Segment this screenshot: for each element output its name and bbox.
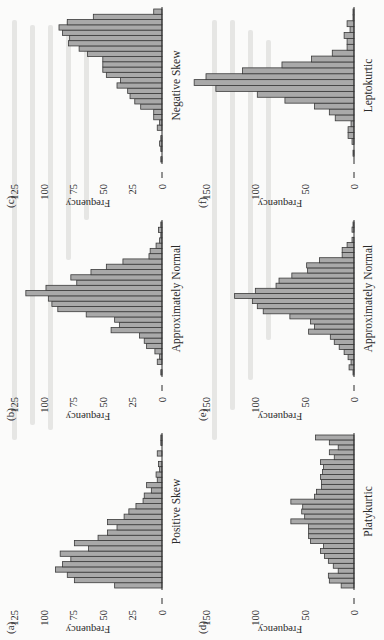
histogram-bar [141, 104, 162, 109]
histogram-bar [158, 227, 162, 232]
histogram-bar [320, 549, 354, 554]
histogram-bar [129, 509, 162, 514]
histogram-bar [308, 268, 354, 273]
histogram-bar [317, 489, 354, 494]
histogram-bar [307, 263, 354, 268]
histogram-bar [115, 583, 162, 588]
y-axis-label: Frequency [65, 411, 110, 422]
histogram-bar [46, 285, 162, 290]
histogram-bar [329, 578, 354, 583]
histogram-bar [309, 329, 354, 334]
histogram-bar [68, 41, 162, 46]
y-tick-label: 125 [9, 610, 20, 626]
histogram-bar [59, 25, 162, 30]
histogram-bar [311, 319, 354, 324]
histogram-bar [89, 546, 162, 551]
y-tick-label: 25 [127, 397, 138, 408]
histogram-bar [70, 35, 162, 40]
bars [55, 435, 162, 588]
histogram-bar [157, 451, 162, 456]
histogram-bar [338, 445, 354, 450]
histogram-bar [67, 20, 162, 25]
histogram-bar [121, 78, 162, 83]
y-tick-label: 75 [68, 397, 79, 408]
y-axis-label: Frequency [65, 624, 110, 635]
y-tick-label: 0 [157, 397, 168, 402]
histogram-bar [119, 322, 162, 327]
histogram-panel-e: (e)050100150FrequencyApproximately Norma… [192, 214, 384, 427]
histogram-bar [285, 97, 354, 103]
histogram-bar [154, 115, 162, 120]
histogram-bar [106, 72, 162, 77]
histogram-bar [60, 551, 162, 556]
histogram-bar [329, 109, 354, 115]
histogram-bar [324, 553, 354, 558]
histogram-bar [334, 455, 354, 460]
histogram-bar [108, 519, 162, 524]
histogram-bar [329, 440, 354, 445]
histogram-bar [350, 27, 354, 33]
histogram-bar [194, 80, 354, 86]
histogram-bar [123, 259, 162, 264]
histogram-bar [290, 314, 354, 319]
y-tick-label: 25 [127, 184, 138, 195]
y-tick-label: 100 [39, 610, 50, 626]
histogram-bar [315, 494, 354, 499]
y-tick-label: 0 [349, 184, 360, 189]
histogram-bar [216, 86, 354, 92]
histogram-bar [74, 541, 162, 546]
y-tick-label: 50 [98, 184, 109, 195]
y-tick-label: 100 [250, 397, 261, 413]
histogram-bar [156, 472, 162, 477]
histogram-bar [347, 242, 354, 247]
y-tick-label: 50 [98, 610, 109, 621]
y-tick-label: 0 [349, 397, 360, 402]
histogram-bar [156, 243, 162, 248]
y-axis-label: Frequency [257, 624, 302, 635]
histogram-bar [243, 68, 354, 74]
histogram-panel-b: (b)0255075100125FrequencyApproximately N… [0, 214, 192, 427]
histogram-bar [140, 333, 163, 338]
histogram-bar [309, 534, 354, 539]
histogram-bar [255, 288, 354, 293]
x-axis-label: Negative Skew [170, 50, 183, 121]
histogram-bar [302, 509, 354, 514]
x-axis-label: Approximately Normal [362, 245, 375, 353]
x-axis-label: Positive Skew [170, 478, 182, 544]
y-tick-label: 75 [68, 610, 79, 621]
histogram-bar [63, 562, 162, 567]
histogram-bar [329, 450, 354, 455]
histogram-bar [79, 46, 162, 51]
histogram-bar [344, 33, 354, 39]
histogram-bar [103, 67, 162, 72]
bars [235, 222, 354, 375]
histogram-bar [348, 127, 354, 133]
y-tick-label: 75 [68, 184, 79, 195]
histogram-bar [319, 258, 354, 263]
histogram-bar [347, 21, 354, 27]
histogram-bar [315, 324, 354, 329]
y-axis-label: Frequency [65, 198, 110, 209]
histogram-bar [63, 30, 162, 35]
histogram-bar [93, 14, 162, 19]
x-axis-label: Leptokurtic [362, 59, 375, 113]
histogram-bar [342, 253, 354, 258]
histogram-panel-a: (a)0255075100125FrequencyPositive Skew [0, 427, 192, 640]
histogram-bar [348, 355, 354, 360]
histogram-bar [292, 273, 354, 278]
histogram-bar [263, 309, 354, 314]
histogram-bar [71, 275, 162, 280]
histogram-bar [151, 488, 162, 493]
histogram-bar [305, 514, 354, 519]
histogram-bar [124, 514, 162, 519]
histogram-bar [144, 493, 162, 498]
histogram-panel-d: (d)050100150FrequencyPlatykurtic [192, 427, 384, 640]
histogram-bar [341, 583, 354, 588]
histogram-bar [348, 133, 354, 139]
histogram-bar [74, 577, 162, 582]
histogram-bar [279, 278, 354, 283]
histogram-bar [98, 535, 162, 540]
y-tick-label: 0 [157, 610, 168, 615]
histogram-bar [321, 484, 354, 489]
histogram-bar [103, 56, 162, 61]
